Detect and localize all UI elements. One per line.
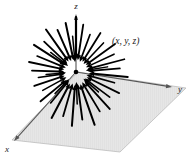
- vector-field-figure: zyx (x, y, z): [0, 0, 188, 157]
- vector-shaft: [32, 71, 59, 72]
- axis-label-x: x: [4, 144, 9, 154]
- vector-shaft: [79, 25, 84, 55]
- axis-label-y: y: [177, 84, 182, 94]
- vector-shaft: [34, 77, 59, 86]
- point-label: (x, y, z): [112, 36, 139, 47]
- vector-shaft: [82, 35, 90, 57]
- vector-shaft: [77, 87, 78, 104]
- origin-point: [74, 70, 79, 75]
- axis-label-z: z: [73, 1, 78, 11]
- vector-shaft: [93, 59, 125, 67]
